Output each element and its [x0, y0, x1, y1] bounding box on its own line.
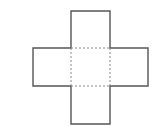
net-outline: [33, 11, 148, 124]
cross-net-diagram: [0, 0, 152, 126]
fold-lines: [71, 48, 110, 86]
